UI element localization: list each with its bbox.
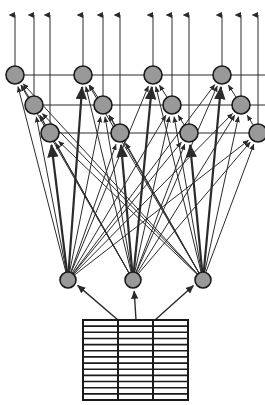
upper-nodes bbox=[6, 66, 265, 142]
hidden-2-to-upper-edge bbox=[138, 142, 250, 274]
upper-node-6 bbox=[111, 124, 129, 142]
intra-cluster-edge bbox=[247, 115, 253, 125]
hidden-3-to-upper-edge bbox=[59, 141, 198, 274]
intra-cluster-edge bbox=[159, 85, 167, 97]
hidden-1-to-upper-edge bbox=[18, 87, 66, 273]
upper-node-11 bbox=[232, 96, 250, 114]
upper-node-7 bbox=[144, 66, 162, 84]
intra-cluster-edge bbox=[21, 85, 29, 97]
hidden-node-1 bbox=[60, 272, 76, 288]
upper-node-2 bbox=[25, 96, 43, 114]
table-to-hidden-edges bbox=[78, 285, 194, 320]
upper-node-8 bbox=[163, 96, 181, 114]
upper-node-9 bbox=[180, 124, 198, 142]
upper-node-5 bbox=[94, 96, 112, 114]
table-to-hidden-arrow-3 bbox=[155, 286, 193, 320]
upper-node-10 bbox=[213, 66, 231, 84]
upper-node-1 bbox=[6, 66, 24, 84]
network-diagram-svg bbox=[0, 0, 265, 405]
hidden-node-3 bbox=[195, 272, 211, 288]
diagram-canvas bbox=[0, 0, 265, 405]
upper-node-4 bbox=[74, 66, 92, 84]
hidden-2-to-upper-edge bbox=[56, 143, 129, 273]
input-data-table bbox=[83, 320, 188, 400]
intra-cluster-edge bbox=[228, 85, 236, 97]
hidden-to-upper-edges bbox=[18, 84, 254, 275]
upper-node-12 bbox=[249, 124, 265, 142]
table-to-hidden-arrow-1 bbox=[78, 285, 118, 320]
upper-node-3 bbox=[41, 124, 59, 142]
table-to-hidden-arrow-2 bbox=[134, 291, 136, 320]
intra-cluster-edge bbox=[178, 115, 184, 125]
intra-cluster-edge bbox=[90, 85, 98, 98]
intra-cluster-edge bbox=[109, 115, 115, 125]
hidden-node-2 bbox=[125, 272, 141, 288]
hidden-nodes bbox=[60, 272, 211, 288]
hidden-3-to-upper-edge bbox=[205, 117, 239, 272]
